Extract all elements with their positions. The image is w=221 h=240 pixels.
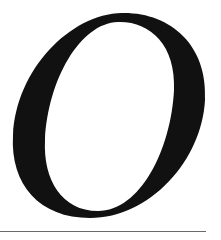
letter-o-glyph: O <box>0 0 221 240</box>
horizontal-rule <box>0 231 206 232</box>
letter-o-icon <box>0 0 221 240</box>
